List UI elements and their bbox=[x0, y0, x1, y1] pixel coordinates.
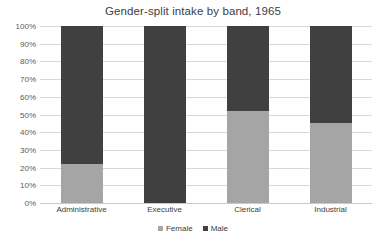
y-axis-tick-label: 0% bbox=[0, 199, 36, 208]
bar-column[interactable] bbox=[144, 26, 186, 203]
y-axis-tick-label: 60% bbox=[0, 92, 36, 101]
legend-swatch-icon bbox=[203, 226, 208, 231]
y-axis: 100%90%80%70%60%50%40%30%20%10%0% bbox=[0, 26, 36, 203]
bar-column[interactable] bbox=[310, 26, 352, 203]
chart-legend: FemaleMale bbox=[0, 224, 386, 233]
bar-segment-male[interactable] bbox=[144, 26, 186, 203]
bar-segment-male[interactable] bbox=[227, 26, 269, 111]
chart-title: Gender-split intake by band, 1965 bbox=[0, 5, 386, 17]
bar-segment-female[interactable] bbox=[310, 123, 352, 203]
bar-segment-female[interactable] bbox=[61, 164, 103, 203]
bar-column[interactable] bbox=[61, 26, 103, 203]
y-axis-tick-label: 50% bbox=[0, 110, 36, 119]
y-axis-tick-label: 90% bbox=[0, 39, 36, 48]
y-axis-tick-label: 30% bbox=[0, 145, 36, 154]
legend-item[interactable]: Male bbox=[203, 224, 228, 233]
y-axis-tick-label: 70% bbox=[0, 75, 36, 84]
x-axis-label: Administrative bbox=[43, 205, 121, 214]
legend-label: Male bbox=[211, 224, 228, 233]
bar-group bbox=[40, 26, 372, 203]
bar-segment-male[interactable] bbox=[61, 26, 103, 164]
gridline bbox=[40, 203, 372, 204]
bar-column[interactable] bbox=[227, 26, 269, 203]
legend-swatch-icon bbox=[158, 226, 163, 231]
x-axis-label: Industrial bbox=[292, 205, 370, 214]
x-axis: AdministrativeExecutiveClericalIndustria… bbox=[40, 205, 372, 219]
legend-item[interactable]: Female bbox=[158, 224, 193, 233]
plot-area bbox=[40, 26, 372, 203]
y-axis-tick-label: 10% bbox=[0, 181, 36, 190]
stacked-bar-chart: Gender-split intake by band, 1965 100%90… bbox=[0, 0, 386, 241]
y-axis-tick-label: 80% bbox=[0, 57, 36, 66]
y-axis-tick-label: 40% bbox=[0, 128, 36, 137]
legend-label: Female bbox=[166, 224, 193, 233]
y-axis-tick-label: 20% bbox=[0, 163, 36, 172]
bar-segment-male[interactable] bbox=[310, 26, 352, 123]
y-axis-tick-label: 100% bbox=[0, 22, 36, 31]
bar-segment-female[interactable] bbox=[227, 111, 269, 203]
x-axis-label: Clerical bbox=[209, 205, 287, 214]
x-axis-label: Executive bbox=[126, 205, 204, 214]
